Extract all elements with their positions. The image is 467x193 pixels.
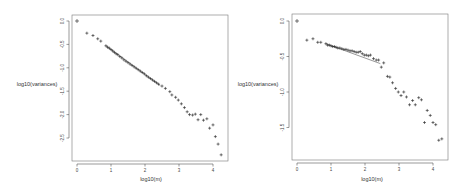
data-point: [437, 139, 440, 142]
data-point: [161, 85, 164, 88]
data-point: [426, 109, 429, 112]
data-point: [429, 114, 432, 117]
y-tick-label: -1.5: [280, 123, 285, 131]
data-point: [330, 44, 333, 47]
x-tick-label: 0: [76, 168, 79, 173]
data-point: [191, 114, 194, 117]
x-tick-label: 3: [178, 168, 181, 173]
data-point: [99, 40, 102, 43]
data-point: [400, 94, 403, 97]
x-axis: 01234: [296, 163, 435, 172]
y-tick-label: 0.0: [280, 17, 285, 24]
y-axis-title: log10(variances): [17, 81, 58, 87]
data-point: [202, 119, 205, 122]
data-point: [180, 102, 183, 105]
data-point: [96, 37, 99, 40]
data-point: [212, 123, 215, 126]
data-point: [124, 60, 127, 63]
data-point: [197, 118, 200, 121]
data-point: [127, 61, 130, 64]
x-tick-label: 4: [432, 167, 435, 172]
data-point: [382, 61, 385, 64]
data-point: [380, 66, 383, 69]
data-point: [295, 19, 299, 23]
chart-canvas: 01234 0.0-0.5-1.0-1.5-2.0-2.5 log10(m) l…: [0, 0, 467, 193]
data-point: [311, 37, 314, 40]
data-point: [434, 123, 437, 126]
data-point: [170, 93, 173, 96]
data-point: [353, 50, 356, 53]
data-point: [85, 32, 88, 35]
data-point: [217, 143, 220, 146]
x-tick-label: 2: [364, 167, 367, 172]
y-tick-label: -0.5: [280, 52, 285, 60]
data-point: [388, 76, 391, 79]
data-point: [208, 127, 211, 130]
data-point: [194, 113, 197, 116]
data-point: [177, 99, 180, 102]
data-point: [365, 54, 368, 57]
x-tick-label: 0: [296, 167, 299, 172]
data-point: [405, 95, 408, 98]
data-point: [91, 34, 94, 37]
data-point: [397, 91, 400, 94]
data-point: [357, 51, 360, 54]
right-scatter-plot: 01234 0.0-0.5-1.0-1.5 log10(m) log10(var…: [238, 14, 448, 182]
data-point: [199, 113, 202, 116]
y-tick-label: -1.0: [60, 63, 65, 71]
plot-frame: [72, 15, 228, 161]
y-tick-label: -0.5: [60, 40, 65, 48]
x-tick-label: 3: [398, 167, 401, 172]
data-point: [319, 41, 322, 44]
data-point: [377, 59, 380, 62]
data-point: [129, 63, 132, 66]
data-point: [414, 103, 417, 106]
data-point: [122, 58, 125, 61]
y-axis: 0.0-0.5-1.0-1.5: [280, 17, 289, 131]
data-point: [367, 54, 370, 57]
data-point: [305, 39, 308, 42]
data-point: [183, 106, 186, 109]
data-point: [174, 96, 177, 99]
y-axis: 0.0-0.5-1.0-1.5-2.0-2.5: [60, 17, 69, 142]
data-point: [417, 96, 420, 99]
y-tick-label: 0.0: [60, 17, 65, 24]
y-axis-title: log10(variances): [238, 81, 279, 87]
y-tick-label: -2.5: [60, 134, 65, 142]
data-points: [295, 19, 443, 142]
data-point: [168, 90, 171, 93]
y-tick-label: -1.0: [280, 88, 285, 96]
plot-frame: [292, 14, 448, 160]
data-point: [420, 98, 423, 101]
x-tick-label: 1: [110, 168, 113, 173]
data-point: [394, 87, 397, 90]
data-point: [411, 99, 414, 102]
x-axis: 01234: [76, 164, 215, 173]
x-tick-label: 2: [144, 168, 147, 173]
data-point: [369, 54, 372, 57]
data-point: [328, 44, 331, 47]
x-axis-title: log10(m): [140, 176, 162, 182]
data-point: [324, 42, 327, 45]
data-point: [359, 50, 362, 53]
data-point: [75, 19, 79, 23]
y-tick-label: -2.0: [60, 110, 65, 118]
data-point: [188, 113, 191, 116]
data-point: [220, 153, 223, 156]
data-point: [432, 121, 435, 124]
data-point: [164, 87, 167, 90]
data-point: [333, 45, 336, 48]
y-tick-label: -1.5: [60, 87, 65, 95]
data-point: [408, 103, 411, 106]
data-points: [75, 19, 223, 156]
data-point: [402, 91, 405, 94]
left-scatter-plot: 01234 0.0-0.5-1.0-1.5-2.0-2.5 log10(m) l…: [17, 15, 228, 182]
data-point: [372, 57, 375, 60]
x-axis-title: log10(m): [361, 176, 383, 182]
data-point: [391, 81, 394, 84]
data-point: [335, 46, 338, 49]
data-point: [316, 41, 319, 44]
data-point: [423, 121, 426, 124]
data-point: [440, 137, 443, 140]
x-tick-label: 1: [330, 167, 333, 172]
